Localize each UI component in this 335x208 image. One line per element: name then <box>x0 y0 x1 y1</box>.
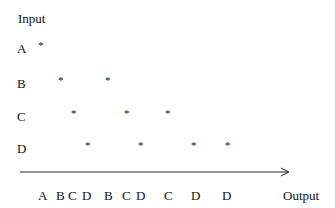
output-symbol: C <box>164 189 173 202</box>
output-symbol: B <box>104 189 113 202</box>
output-symbol: A <box>38 189 47 202</box>
output-axis-label: Output <box>283 189 319 202</box>
output-symbol: D <box>136 189 145 202</box>
output-symbol: B <box>56 189 65 202</box>
output-axis-arrow <box>0 0 335 208</box>
output-symbol: C <box>68 189 77 202</box>
output-symbol: D <box>222 189 231 202</box>
output-symbol: D <box>82 189 91 202</box>
output-symbol: C <box>122 189 131 202</box>
output-symbol: D <box>191 189 200 202</box>
